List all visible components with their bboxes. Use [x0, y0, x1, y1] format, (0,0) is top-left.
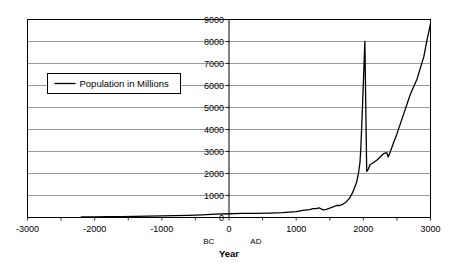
x-tick-label: 1000: [286, 224, 306, 234]
x-tick-label: -2000: [83, 224, 106, 234]
x-tick-label: 3000: [420, 224, 440, 234]
x-tick-label: 2000: [353, 224, 373, 234]
ad-label: AD: [250, 237, 261, 246]
x-tick-label: -3000: [16, 224, 39, 234]
population-growth-chart: 0100020003000400050006000700080009000-30…: [0, 0, 453, 272]
y-tick-label: 5000: [204, 103, 224, 113]
legend-entry-label: Population in Millions: [80, 78, 169, 89]
y-tick-label: 7000: [204, 59, 224, 69]
y-tick-label: 3000: [204, 147, 224, 157]
y-tick-label: 2000: [204, 169, 224, 179]
x-tick-label: -1000: [150, 224, 173, 234]
bc-label: BC: [203, 237, 214, 246]
x-tick-label: 0: [226, 224, 231, 234]
y-tick-label: 9000: [204, 15, 224, 25]
y-tick-label: 8000: [204, 37, 224, 47]
x-axis-title: Year: [219, 248, 239, 259]
y-tick-label: 4000: [204, 125, 224, 135]
y-tick-label: 6000: [204, 81, 224, 91]
y-tick-label: 1000: [204, 191, 224, 201]
chart-canvas: 0100020003000400050006000700080009000-30…: [0, 0, 453, 272]
